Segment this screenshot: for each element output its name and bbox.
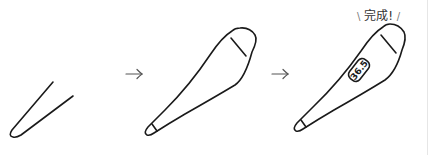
- completion-label: \ 完成! /: [357, 6, 400, 23]
- v-shape-lines: [10, 82, 73, 137]
- thermometer-detail-svg: 36.5: [0, 0, 429, 155]
- left-deco: \: [357, 11, 360, 22]
- completion-text: 完成!: [364, 9, 393, 23]
- drawing-steps-diagram: 36.5 \ 完成! /: [0, 0, 429, 155]
- thermometer-2-shape: [145, 28, 256, 135]
- right-deco: /: [397, 11, 400, 22]
- arrow-1-icon: [126, 70, 142, 79]
- arrow-2-icon: [272, 70, 288, 79]
- right-edge-divider: [427, 0, 428, 155]
